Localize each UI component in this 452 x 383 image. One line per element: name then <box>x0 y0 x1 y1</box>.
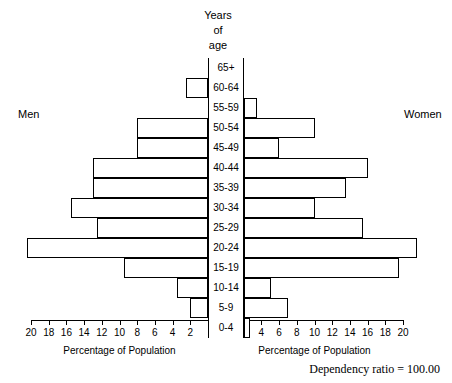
bar-women-20-24 <box>244 238 417 258</box>
x-tick <box>279 320 280 325</box>
x-tick-label: 4 <box>164 327 182 338</box>
bar-men-40-44 <box>93 158 208 178</box>
pyramid-row: 35-39 <box>18 178 434 198</box>
x-tick <box>368 320 369 325</box>
x-tick <box>120 320 121 325</box>
bar-women-35-39 <box>244 178 346 198</box>
x-tick-label: 10 <box>306 327 324 338</box>
x-tick <box>350 320 351 325</box>
x-tick-label: 8 <box>128 327 146 338</box>
x-tick-label: 16 <box>359 327 377 338</box>
bar-men-45-49 <box>137 138 208 158</box>
x-tick <box>332 320 333 325</box>
plot-area: 65+60-6455-5950-5445-4940-4435-3930-3425… <box>18 58 434 320</box>
bar-men-60-64 <box>186 78 208 98</box>
bar-men-5-9 <box>190 298 208 318</box>
x-tick-label: 14 <box>341 327 359 338</box>
x-tick-label: 6 <box>146 327 164 338</box>
x-tick <box>84 320 85 325</box>
age-group-label-45-49: 45-49 <box>208 138 244 158</box>
age-group-label-10-14: 10-14 <box>208 278 244 298</box>
x-axis-caption-right: Percentage of Population <box>226 345 403 356</box>
pyramid-row: 45-49 <box>18 138 434 158</box>
x-tick <box>385 320 386 325</box>
x-tick-label: 14 <box>75 327 93 338</box>
x-tick <box>297 320 298 325</box>
x-tick <box>190 320 191 325</box>
x-tick <box>137 320 138 325</box>
title-line-1: Years <box>183 8 253 23</box>
bar-men-50-54 <box>137 118 208 138</box>
x-tick <box>49 320 50 325</box>
bar-women-55-59 <box>244 98 257 118</box>
x-tick-label: 18 <box>376 327 394 338</box>
bar-men-10-14 <box>177 278 208 298</box>
pyramid-row: 55-59 <box>18 98 434 118</box>
age-group-label-15-19: 15-19 <box>208 258 244 278</box>
population-pyramid-figure: Years of age Men Women 65+60-6455-5950-5… <box>0 0 452 383</box>
x-tick <box>31 320 32 325</box>
x-tick <box>315 320 316 325</box>
bar-women-0-4 <box>244 318 250 338</box>
bar-men-25-29 <box>97 218 208 238</box>
x-tick <box>102 320 103 325</box>
x-tick-label: 16 <box>57 327 75 338</box>
pyramid-row: 10-14 <box>18 278 434 298</box>
pyramid-row: 60-64 <box>18 78 434 98</box>
x-tick-label: 8 <box>288 327 306 338</box>
x-tick <box>403 320 404 325</box>
bar-women-45-49 <box>244 138 279 158</box>
age-group-label-5-9: 5-9 <box>208 298 244 318</box>
pyramid-row: 25-29 <box>18 218 434 238</box>
x-tick <box>173 320 174 325</box>
bar-women-40-44 <box>244 158 368 178</box>
x-tick <box>155 320 156 325</box>
pyramid-row: 30-34 <box>18 198 434 218</box>
age-group-label-20-24: 20-24 <box>208 238 244 258</box>
bar-men-15-19 <box>124 258 208 278</box>
x-tick-label: 20 <box>22 327 40 338</box>
pyramid-row: 20-24 <box>18 238 434 258</box>
pyramid-row: 5-9 <box>18 298 434 318</box>
age-group-label-30-34: 30-34 <box>208 198 244 218</box>
x-axis-caption-left: Percentage of Population <box>31 345 208 356</box>
x-tick-label: 20 <box>394 327 412 338</box>
bar-men-35-39 <box>93 178 208 198</box>
bar-men-20-24 <box>27 238 208 258</box>
age-group-label-55-59: 55-59 <box>208 98 244 118</box>
bar-women-25-29 <box>244 218 363 238</box>
x-tick-label: 2 <box>181 327 199 338</box>
x-tick-label: 12 <box>93 327 111 338</box>
age-group-label-25-29: 25-29 <box>208 218 244 238</box>
bar-women-30-34 <box>244 198 315 218</box>
pyramid-row: 50-54 <box>18 118 434 138</box>
chart-title: Years of age <box>183 8 253 53</box>
age-group-label-40-44: 40-44 <box>208 158 244 178</box>
x-tick-label: 18 <box>40 327 58 338</box>
x-tick-label: 12 <box>323 327 341 338</box>
pyramid-row: 65+ <box>18 58 434 78</box>
x-tick <box>261 320 262 325</box>
bar-women-5-9 <box>244 298 288 318</box>
age-group-label-65+: 65+ <box>208 58 244 78</box>
bar-women-15-19 <box>244 258 399 278</box>
bar-women-50-54 <box>244 118 315 138</box>
pyramid-row: 40-44 <box>18 158 434 178</box>
x-tick-label: 6 <box>270 327 288 338</box>
age-group-label-0-4: 0-4 <box>208 318 244 338</box>
pyramid-row: 15-19 <box>18 258 434 278</box>
bar-men-30-34 <box>71 198 208 218</box>
x-tick-label: 4 <box>252 327 270 338</box>
x-tick-label: 10 <box>111 327 129 338</box>
x-tick <box>66 320 67 325</box>
bar-women-10-14 <box>244 278 271 298</box>
title-line-2: of <box>183 23 253 38</box>
title-line-3: age <box>183 38 253 53</box>
dependency-ratio-note: Dependency ratio = 100.00 <box>309 362 440 377</box>
age-group-label-35-39: 35-39 <box>208 178 244 198</box>
age-group-label-60-64: 60-64 <box>208 78 244 98</box>
age-group-label-50-54: 50-54 <box>208 118 244 138</box>
